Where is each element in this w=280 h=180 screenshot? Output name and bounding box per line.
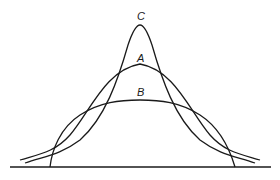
curve-b-label: B [137, 87, 144, 98]
curve-b [50, 100, 235, 167]
curve-c-label: C [137, 11, 145, 22]
curve-a-label: A [137, 53, 144, 64]
